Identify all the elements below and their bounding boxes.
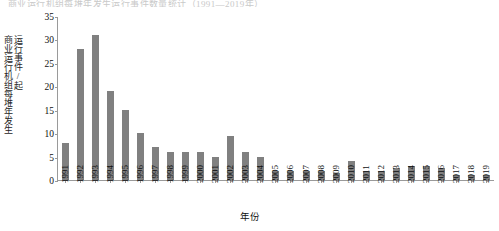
bar-slot [208, 17, 223, 180]
x-label-slot: 1999 [178, 183, 193, 211]
x-axis-year-label: 2012 [376, 165, 386, 183]
x-axis-year-label: 2001 [210, 165, 220, 183]
x-axis-year-label: 2009 [331, 165, 341, 183]
bar-slot [359, 17, 374, 180]
x-axis-year-label: 2000 [195, 165, 205, 183]
x-label-slot: 1993 [87, 183, 102, 211]
y-axis-tick-mark [55, 181, 58, 182]
x-axis-year-label: 1991 [60, 165, 70, 183]
y-axis-tick-mark [55, 111, 58, 112]
y-axis-tick-mark [55, 40, 58, 41]
x-axis-year-label: 1996 [135, 165, 145, 183]
x-label-slot: 2004 [253, 183, 268, 211]
x-label-slot: 2015 [419, 183, 434, 211]
x-label-slot: 2001 [208, 183, 223, 211]
x-axis-year-label: 2011 [361, 165, 371, 183]
x-axis-tick-labels: 1991199219931994199519961997199819992000… [57, 183, 494, 211]
bar-series [58, 17, 494, 180]
bar-slot [253, 17, 268, 180]
x-axis-year-label: 2005 [270, 165, 280, 183]
y-axis-tick-label: 0 [49, 176, 54, 186]
x-label-slot: 2007 [298, 183, 313, 211]
y-axis-tick-label: 20 [45, 82, 55, 92]
bar-slot [299, 17, 314, 180]
bar-slot [374, 17, 389, 180]
y-axis-tick-label: 35 [45, 12, 55, 22]
x-label-slot: 2017 [449, 183, 464, 211]
bar-chart-figure: 商业运行机组每堆年发生 运行事件/起 05101520253035 199119… [0, 0, 499, 231]
y-axis-tick-label: 5 [49, 153, 54, 163]
x-label-slot: 2008 [313, 183, 328, 211]
x-label-slot: 2016 [434, 183, 449, 211]
bar-slot [404, 17, 419, 180]
y-axis-tick-label: 15 [45, 106, 55, 116]
x-label-slot: 2012 [373, 183, 388, 211]
x-axis-year-label: 1993 [90, 165, 100, 183]
bar-slot [344, 17, 359, 180]
bar-slot [118, 17, 133, 180]
y-axis-tick-mark [55, 87, 58, 88]
bar-slot [464, 17, 479, 180]
x-axis-year-label: 2007 [301, 165, 311, 183]
x-axis-title: 年份 [0, 212, 499, 223]
x-axis-year-label: 1994 [105, 165, 115, 183]
bar-slot [193, 17, 208, 180]
y-axis-tick-label: 30 [45, 35, 55, 45]
x-label-slot: 2002 [223, 183, 238, 211]
bar-slot [283, 17, 298, 180]
x-axis-year-label: 2002 [225, 165, 235, 183]
bar-slot [434, 17, 449, 180]
x-axis-year-label: 2008 [316, 165, 326, 183]
bar-slot [268, 17, 283, 180]
x-label-slot: 2010 [343, 183, 358, 211]
bar-slot [103, 17, 118, 180]
x-label-slot: 1991 [57, 183, 72, 211]
y-axis-tick-mark [55, 17, 58, 18]
x-label-slot: 2009 [328, 183, 343, 211]
x-axis-year-label: 1995 [120, 165, 130, 183]
bar-slot [389, 17, 404, 180]
bar-slot [223, 17, 238, 180]
x-label-slot: 1997 [147, 183, 162, 211]
bar-slot [238, 17, 253, 180]
bar [77, 49, 84, 180]
y-axis-tick-label: 25 [45, 59, 55, 69]
y-axis-title-line-2: 运行事件/起 [12, 35, 23, 167]
y-axis-tick-mark [55, 158, 58, 159]
x-axis-year-label: 2006 [285, 165, 295, 183]
x-axis-year-label: 2019 [481, 165, 491, 183]
bar-slot [314, 17, 329, 180]
x-label-slot: 2014 [403, 183, 418, 211]
x-label-slot: 1992 [72, 183, 87, 211]
x-label-slot: 1995 [117, 183, 132, 211]
x-axis-year-label: 2010 [346, 165, 356, 183]
x-axis-year-label: 2017 [451, 165, 461, 183]
x-axis-year-label: 1997 [150, 165, 160, 183]
bar-slot [178, 17, 193, 180]
x-axis-year-label: 2016 [436, 165, 446, 183]
x-axis-year-label: 1998 [165, 165, 175, 183]
x-axis-year-label: 2014 [406, 165, 416, 183]
x-axis-year-label: 2015 [421, 165, 431, 183]
bar-slot [58, 17, 73, 180]
x-axis-year-label: 1992 [75, 165, 85, 183]
x-label-slot: 2019 [479, 183, 494, 211]
x-label-slot: 1998 [162, 183, 177, 211]
bar [92, 35, 99, 180]
x-label-slot: 2018 [464, 183, 479, 211]
x-label-slot: 2000 [193, 183, 208, 211]
x-label-slot: 2011 [358, 183, 373, 211]
x-label-slot: 2013 [388, 183, 403, 211]
x-axis-year-label: 2003 [240, 165, 250, 183]
bar-slot [449, 17, 464, 180]
x-label-slot: 2005 [268, 183, 283, 211]
x-axis-year-label: 1999 [180, 165, 190, 183]
x-axis-year-label: 2004 [255, 165, 265, 183]
bar-slot [148, 17, 163, 180]
x-label-slot: 1994 [102, 183, 117, 211]
bar-slot [479, 17, 494, 180]
x-axis-year-label: 2013 [391, 165, 401, 183]
y-axis-tick-mark [55, 134, 58, 135]
x-label-slot: 1996 [132, 183, 147, 211]
x-label-slot: 2003 [238, 183, 253, 211]
